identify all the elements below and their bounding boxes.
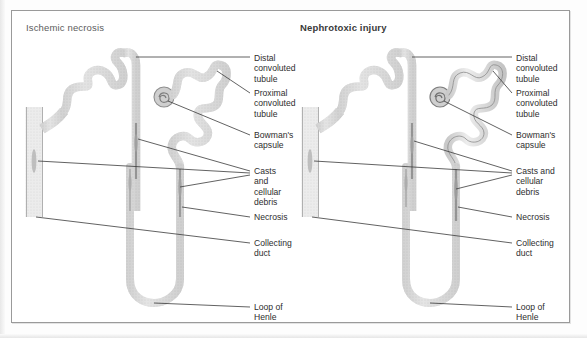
leader-bowmans-capsule — [444, 101, 512, 135]
label-necrosis: Necrosis — [516, 212, 549, 222]
leader-loop-of-henle — [430, 303, 512, 307]
label-casts-and-cellular-debris: Casts and cellular debris — [516, 166, 555, 197]
label-loop-of-henle: Loop of Henle — [516, 302, 545, 323]
leader-casts-1 — [138, 139, 250, 171]
leader-collecting-duct — [312, 217, 512, 243]
leader-collecting-duct — [36, 217, 250, 243]
label-casts-and-cellular-debris: Casts and cellular debris — [254, 166, 286, 208]
label-bowmans-capsule: Bowman's capsule — [516, 130, 555, 151]
figure-page: Ischemic necrosis — [0, 0, 587, 338]
page-edge-shadow-left — [0, 0, 5, 338]
leader-casts-3 — [456, 175, 512, 189]
leader-casts-2 — [314, 161, 512, 173]
leader-casts-1 — [414, 141, 512, 171]
page-edge-shadow-bottom — [0, 334, 587, 338]
leader-loop-of-henle — [154, 303, 250, 307]
leader-casts-3 — [180, 175, 250, 187]
label-necrosis: Necrosis — [254, 212, 287, 222]
panel-nephrotoxic-injury: Nephrotoxic injury — [286, 11, 571, 324]
label-loop-of-henle: Loop of Henle — [254, 302, 283, 323]
leader-necrosis — [458, 207, 512, 217]
leader-necrosis — [182, 207, 250, 217]
figure-frame: Ischemic necrosis — [11, 10, 570, 323]
leader-bowmans-capsule — [168, 101, 250, 135]
panel-ischemic-necrosis: Ischemic necrosis — [12, 11, 286, 324]
leader-proximal-convoluted-tubule — [217, 71, 250, 93]
leader-proximal-convoluted-tubule — [493, 71, 512, 93]
leader-lines-ischemic — [12, 11, 286, 324]
label-proximal-convoluted-tubule: Proximal convoluted tubule — [516, 88, 558, 119]
label-distal-convoluted-tubule: Distal convoluted tubule — [516, 53, 558, 84]
label-collecting-duct: Collecting duct — [516, 238, 554, 259]
leader-casts-2 — [38, 161, 250, 173]
